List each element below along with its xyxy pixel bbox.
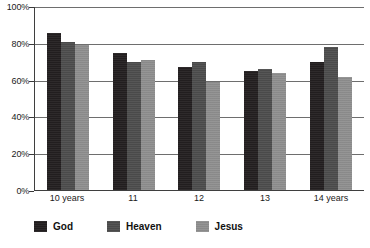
x-axis: 10 years11121314 years [34, 193, 364, 204]
x-tick-label: 13 [232, 193, 298, 204]
legend-swatch-icon [196, 221, 209, 232]
legend-swatch-icon [107, 221, 120, 232]
legend-item-jesus[interactable]: Jesus [196, 221, 243, 232]
bar-groups [35, 7, 364, 190]
x-tick-label: 10 years [34, 193, 100, 204]
legend-label: God [53, 221, 73, 232]
bar-cluster [113, 7, 155, 190]
y-tick-label-100: 100% [7, 3, 29, 12]
plot-wrapper: 100% 80% 60% 40% 20% 0% 10 years11121314… [0, 0, 370, 205]
legend-label: Jesus [215, 221, 243, 232]
bar-group [298, 7, 364, 190]
bar-heaven[interactable] [61, 42, 75, 190]
x-tick-label: 11 [100, 193, 166, 204]
bar-group [101, 7, 167, 190]
bar-jesus[interactable] [206, 82, 220, 190]
plot-area [34, 7, 364, 191]
bar-heaven[interactable] [258, 69, 272, 190]
bar-jesus[interactable] [338, 77, 352, 190]
x-tick-label: 14 years [298, 193, 364, 204]
bar-heaven[interactable] [324, 47, 338, 190]
x-tick-label: 12 [166, 193, 232, 204]
legend-label: Heaven [126, 221, 162, 232]
bar-group [35, 7, 101, 190]
y-tick-label-20: 20% [12, 150, 29, 159]
bar-cluster [178, 7, 220, 190]
bar-jesus[interactable] [272, 73, 286, 190]
bar-heaven[interactable] [192, 62, 206, 190]
bar-god[interactable] [178, 67, 192, 190]
bar-heaven[interactable] [127, 62, 141, 190]
bar-group [232, 7, 298, 190]
chart-legend: GodHeavenJesus [34, 221, 364, 232]
y-tick-label-0: 0% [16, 187, 29, 196]
legend-swatch-icon [34, 221, 47, 232]
bar-cluster [244, 7, 286, 190]
bar-god[interactable] [47, 33, 61, 190]
bar-god[interactable] [113, 53, 127, 190]
y-tick-label-80: 80% [12, 39, 29, 48]
bar-group [167, 7, 233, 190]
bar-cluster [310, 7, 352, 190]
bar-cluster [47, 7, 89, 190]
legend-item-heaven[interactable]: Heaven [107, 221, 162, 232]
y-tick-label-60: 60% [12, 76, 29, 85]
bar-god[interactable] [310, 62, 324, 190]
legend-item-god[interactable]: God [34, 221, 73, 232]
bar-chart: 100% 80% 60% 40% 20% 0% 10 years11121314… [0, 0, 370, 248]
y-axis: 100% 80% 60% 40% 20% 0% [0, 0, 34, 205]
bar-jesus[interactable] [141, 60, 155, 190]
y-tick-label-40: 40% [12, 113, 29, 122]
bar-jesus[interactable] [75, 45, 89, 190]
y-tick-mark-0 [29, 191, 34, 192]
bar-god[interactable] [244, 71, 258, 190]
